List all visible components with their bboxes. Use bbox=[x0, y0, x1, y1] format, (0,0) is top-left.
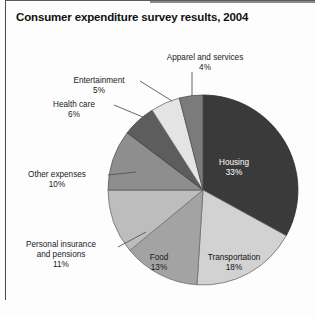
slice-label-apparel-and-services: Apparel and services 4% bbox=[150, 53, 260, 73]
slice-label-personal-insurance: Personal insurance and pensions 11% bbox=[6, 240, 116, 271]
slice-label-transportation-name: Transportation bbox=[196, 253, 272, 263]
slice-label-entertainment: Entertainment 5% bbox=[60, 76, 138, 96]
slice-label-transportation-value: 18% bbox=[196, 263, 272, 273]
slice-label-transportation: Transportation 18% bbox=[196, 253, 272, 273]
slice-label-other-expenses-name: Other expenses bbox=[8, 170, 106, 180]
chart-figure: Consumer expenditure survey results, 200… bbox=[0, 0, 315, 318]
slice-label-entertainment-value: 5% bbox=[60, 86, 138, 96]
slice-label-food-name: Food bbox=[133, 253, 185, 263]
slice-label-housing: Housing 33% bbox=[204, 158, 264, 178]
slice-label-health-care-value: 6% bbox=[36, 110, 112, 120]
slice-label-food: Food 13% bbox=[133, 253, 185, 273]
slice-label-food-value: 13% bbox=[133, 263, 185, 273]
slice-label-personal-insurance-value: 11% bbox=[6, 260, 116, 270]
slice-label-other-expenses-value: 10% bbox=[8, 180, 106, 190]
slice-label-housing-name: Housing bbox=[204, 158, 264, 168]
slice-label-housing-value: 33% bbox=[204, 168, 264, 178]
slice-label-personal-insurance-name-line2: and pensions bbox=[6, 250, 116, 260]
slice-label-personal-insurance-name-line1: Personal insurance bbox=[6, 240, 116, 250]
leader-line-entertainment bbox=[140, 81, 172, 101]
slice-label-apparel-name: Apparel and services bbox=[150, 53, 260, 63]
slice-label-entertainment-name: Entertainment bbox=[60, 76, 138, 86]
slice-label-health-care-name: Health care bbox=[36, 100, 112, 110]
leader-line-health-care bbox=[114, 105, 150, 120]
slice-label-apparel-value: 4% bbox=[150, 63, 260, 73]
slice-label-other-expenses: Other expenses 10% bbox=[8, 170, 106, 190]
slice-label-health-care: Health care 6% bbox=[36, 100, 112, 120]
